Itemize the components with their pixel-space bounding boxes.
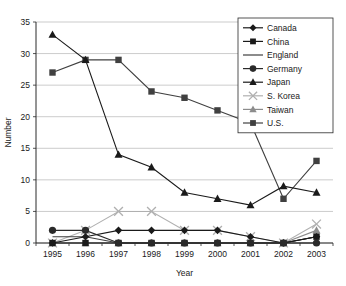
- data-point: [214, 107, 220, 113]
- legend-label: U.S.: [267, 118, 284, 128]
- chart-container: 05101520253035 1995199619971998199920002…: [0, 0, 346, 286]
- data-point: [115, 227, 123, 235]
- y-tick-labels: 05101520253035: [21, 17, 31, 248]
- y-tick-label: 10: [21, 175, 31, 185]
- y-tick-label: 0: [25, 238, 30, 248]
- data-point: [148, 88, 154, 94]
- x-tick-label: 1995: [43, 249, 62, 259]
- data-point: [82, 227, 89, 234]
- y-tick-label: 25: [21, 80, 31, 90]
- legend-label: Taiwan: [267, 105, 294, 115]
- data-point: [115, 239, 122, 246]
- x-tick-label: 1998: [142, 249, 161, 259]
- data-point: [82, 233, 90, 241]
- y-axis-title: Number: [3, 117, 13, 147]
- x-tick-label: 2000: [208, 249, 227, 259]
- legend-label: Canada: [267, 23, 297, 33]
- data-point: [148, 227, 156, 235]
- y-tick-label: 35: [21, 17, 31, 27]
- data-point: [214, 239, 221, 246]
- data-point: [280, 196, 286, 202]
- legend-label: Germany: [267, 64, 303, 74]
- x-tick-label: 1997: [109, 249, 128, 259]
- legend-label: England: [267, 50, 298, 60]
- data-point: [49, 69, 55, 75]
- data-point: [181, 239, 188, 246]
- legend-label: China: [267, 37, 289, 47]
- data-point: [115, 57, 121, 63]
- data-point: [181, 95, 187, 101]
- data-point: [250, 65, 257, 72]
- data-point: [280, 182, 288, 189]
- y-tick-label: 5: [25, 206, 30, 216]
- x-tick-label: 2002: [274, 249, 293, 259]
- data-point: [250, 120, 256, 126]
- y-tick-label: 15: [21, 143, 31, 153]
- legend-label: S. Korea: [267, 91, 300, 101]
- data-point: [115, 150, 123, 157]
- chart-legend: CanadaChinaEnglandGermanyJapanS. KoreaTa…: [238, 18, 333, 133]
- legend-box: [238, 18, 333, 133]
- data-point: [82, 240, 88, 246]
- x-tick-label: 1996: [76, 249, 95, 259]
- x-tick-label: 2001: [241, 249, 260, 259]
- data-point: [280, 239, 287, 246]
- data-point: [148, 239, 155, 246]
- data-point: [181, 188, 189, 195]
- data-point: [250, 39, 256, 45]
- data-point: [49, 227, 56, 234]
- x-tick-label: 1999: [175, 249, 194, 259]
- x-tick-label: 2003: [307, 249, 326, 259]
- y-tick-label: 20: [21, 112, 31, 122]
- y-tick-label: 30: [21, 49, 31, 59]
- data-point: [313, 239, 320, 246]
- line-chart: 05101520253035 1995199619971998199920002…: [0, 0, 346, 286]
- legend-label: Japan: [267, 77, 290, 87]
- data-point: [313, 158, 319, 164]
- x-tick-labels: 199519961997199819992000200120022003: [43, 249, 326, 259]
- x-axis-title: Year: [176, 268, 193, 278]
- data-point: [247, 239, 254, 246]
- data-point: [49, 30, 57, 37]
